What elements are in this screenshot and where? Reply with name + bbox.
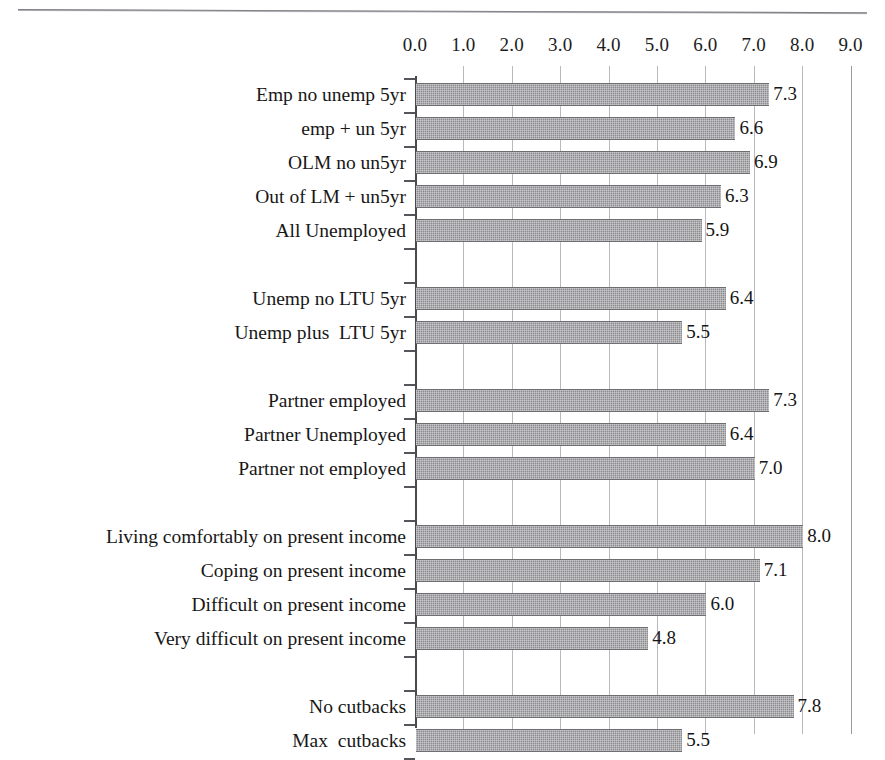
bar-row: 5.5 bbox=[415, 316, 851, 350]
axis-tick-mark bbox=[404, 418, 415, 420]
bar-row: 6.9 bbox=[415, 146, 851, 180]
category-label-text: OLM no un5yr bbox=[288, 146, 406, 180]
bar bbox=[416, 559, 760, 582]
x-axis-tick-label: 2.0 bbox=[486, 33, 538, 57]
category-label: Partner employed bbox=[0, 384, 406, 418]
category-label: Difficult on present income bbox=[0, 588, 406, 622]
axis-tick-mark bbox=[404, 622, 415, 624]
bar bbox=[416, 627, 648, 650]
axis-tick-mark bbox=[404, 112, 415, 114]
bar bbox=[416, 117, 735, 140]
bar-value-label: 6.6 bbox=[739, 115, 763, 141]
axis-tick-mark bbox=[404, 486, 415, 488]
category-label: Living comfortably on present income bbox=[0, 520, 406, 554]
x-axis-tick-label: 7.0 bbox=[728, 33, 780, 57]
bar-value-label: 5.9 bbox=[706, 217, 730, 243]
category-spacer bbox=[0, 350, 406, 384]
category-label-text: Partner Unemployed bbox=[244, 418, 406, 452]
category-label: Partner Unemployed bbox=[0, 418, 406, 452]
axis-tick-mark bbox=[404, 520, 415, 522]
axis-tick-mark bbox=[404, 690, 415, 692]
bar-row: 6.4 bbox=[415, 418, 851, 452]
axis-tick-mark bbox=[404, 384, 415, 386]
category-label: Max cutbacks bbox=[0, 724, 406, 758]
category-label-text: Out of LM + un5yr bbox=[255, 180, 406, 214]
category-label: Emp no unemp 5yr bbox=[0, 78, 406, 112]
bar-row: 7.1 bbox=[415, 554, 851, 588]
bar bbox=[416, 525, 803, 548]
category-label-text: Difficult on present income bbox=[191, 588, 406, 622]
category-spacer bbox=[0, 656, 406, 690]
category-label: Out of LM + un5yr bbox=[0, 180, 406, 214]
axis-tick-mark bbox=[404, 656, 415, 658]
category-label-text: Emp no unemp 5yr bbox=[256, 78, 406, 112]
category-label-text: Partner not employed bbox=[238, 452, 406, 486]
axis-tick-mark bbox=[404, 724, 415, 726]
bar-row: 6.4 bbox=[415, 282, 851, 316]
bar-value-label: 8.0 bbox=[807, 523, 831, 549]
category-label: emp + un 5yr bbox=[0, 112, 406, 146]
bar bbox=[416, 83, 769, 106]
bar-value-label: 6.4 bbox=[730, 285, 754, 311]
axis-tick-mark bbox=[404, 350, 415, 352]
axis-tick-mark bbox=[404, 588, 415, 590]
axis-tick-mark bbox=[404, 282, 415, 284]
bar bbox=[416, 695, 794, 718]
bar-value-label: 7.8 bbox=[798, 693, 822, 719]
bar bbox=[416, 219, 702, 242]
category-label-text: Unemp no LTU 5yr bbox=[252, 282, 406, 316]
bar-row: 5.5 bbox=[415, 724, 851, 758]
bar bbox=[416, 729, 682, 752]
x-axis-tick-label: 0.0 bbox=[389, 33, 441, 57]
category-label-text: All Unemployed bbox=[275, 214, 406, 248]
axis-tick-mark bbox=[404, 316, 415, 318]
plot-area: 7.36.66.96.35.96.45.57.36.47.08.07.16.04… bbox=[415, 78, 851, 726]
bar-row: 8.0 bbox=[415, 520, 851, 554]
bar bbox=[416, 151, 750, 174]
x-axis-tick-labels: 0.01.02.03.04.05.06.07.08.09.0 bbox=[0, 33, 885, 57]
x-axis-tick-label: 5.0 bbox=[631, 33, 683, 57]
axis-tick-mark bbox=[404, 554, 415, 556]
category-spacer bbox=[0, 486, 406, 520]
axis-tick-mark bbox=[404, 146, 415, 148]
axis-tick-mark bbox=[404, 78, 415, 80]
axis-tick-mark bbox=[404, 214, 415, 216]
x-axis-tick-label: 4.0 bbox=[583, 33, 635, 57]
category-label: No cutbacks bbox=[0, 690, 406, 724]
axis-tick-mark bbox=[404, 452, 415, 454]
axis-tick-mark bbox=[404, 180, 415, 182]
bar-value-label: 7.3 bbox=[773, 387, 797, 413]
bar-row: 6.6 bbox=[415, 112, 851, 146]
category-label: Partner not employed bbox=[0, 452, 406, 486]
bar-value-label: 5.5 bbox=[686, 727, 710, 753]
x-axis-tick-label: 3.0 bbox=[534, 33, 586, 57]
category-label-text: Max cutbacks bbox=[292, 724, 406, 758]
category-label: Unemp plus LTU 5yr bbox=[0, 316, 406, 350]
bar-value-label: 6.4 bbox=[730, 421, 754, 447]
category-label: Coping on present income bbox=[0, 554, 406, 588]
bar-row: 6.0 bbox=[415, 588, 851, 622]
bar-row: 7.8 bbox=[415, 690, 851, 724]
bar bbox=[416, 389, 769, 412]
bar-value-label: 6.9 bbox=[754, 149, 778, 175]
bar bbox=[416, 423, 726, 446]
bar-value-label: 5.5 bbox=[686, 319, 710, 345]
axis-tick-mark bbox=[404, 248, 415, 250]
bar bbox=[416, 593, 706, 616]
category-label-text: Unemp plus LTU 5yr bbox=[234, 316, 406, 350]
x-axis-tick-label: 8.0 bbox=[776, 33, 828, 57]
category-label-text: Living comfortably on present income bbox=[106, 520, 406, 554]
bar-value-label: 4.8 bbox=[652, 625, 676, 651]
bar bbox=[416, 287, 726, 310]
category-spacer bbox=[0, 248, 406, 282]
category-label: All Unemployed bbox=[0, 214, 406, 248]
category-label: Unemp no LTU 5yr bbox=[0, 282, 406, 316]
bar-row: 5.9 bbox=[415, 214, 851, 248]
category-label: Very difficult on present income bbox=[0, 622, 406, 656]
category-label: OLM no un5yr bbox=[0, 146, 406, 180]
bar-value-label: 7.3 bbox=[773, 81, 797, 107]
x-axis-tick-label: 9.0 bbox=[825, 33, 877, 57]
bar-value-label: 7.0 bbox=[759, 455, 783, 481]
category-label-text: emp + un 5yr bbox=[301, 112, 406, 146]
